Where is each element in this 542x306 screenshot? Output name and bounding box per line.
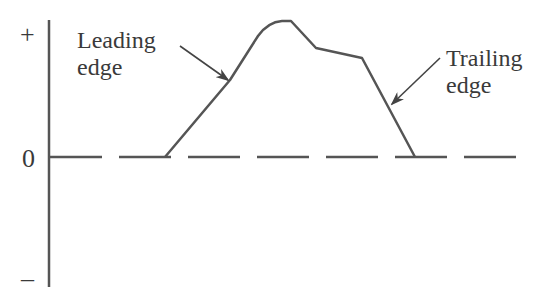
y-tick-plus: +	[20, 22, 35, 48]
y-tick-minus: –	[21, 266, 34, 292]
leading-edge-label-line1: Leading	[77, 27, 156, 54]
leading-edge-arrow	[180, 46, 228, 80]
pulse-waveform-curve	[165, 21, 415, 157]
trailing-edge-label-line2: edge	[446, 72, 522, 99]
trailing-edge-arrow	[392, 58, 440, 104]
leading-edge-label: Leading edge	[77, 27, 156, 81]
leading-edge-label-line2: edge	[77, 54, 156, 81]
trailing-edge-label: Trailing edge	[446, 45, 522, 99]
trailing-edge-label-line1: Trailing	[446, 45, 522, 72]
y-tick-zero: 0	[22, 146, 35, 172]
